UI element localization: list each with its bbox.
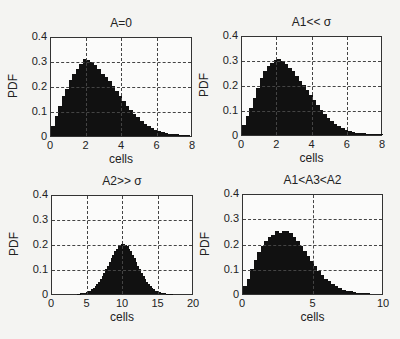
- x-tick-label: 2: [76, 139, 96, 151]
- y-tick-label: 0.2: [32, 80, 47, 92]
- y-tick-label: 0.3: [32, 55, 47, 67]
- x-tick-label: 10: [112, 297, 132, 309]
- gridline-vertical: [347, 37, 348, 135]
- x-tick-label: 2: [266, 138, 286, 150]
- x-axis-label: cells: [102, 310, 142, 324]
- y-tick-label: 0.1: [224, 263, 239, 275]
- x-tick-label: 8: [372, 138, 392, 150]
- x-tick-label: 4: [111, 139, 131, 151]
- gridline-vertical: [121, 38, 122, 136]
- plot-area: [242, 194, 383, 295]
- y-tick-label: 0.1: [32, 105, 47, 117]
- histogram-bar: [379, 134, 383, 135]
- gridline-vertical: [158, 196, 159, 294]
- gridline-vertical: [313, 195, 314, 294]
- y-tick-label: 0.3: [223, 54, 238, 66]
- x-axis-label: cells: [101, 152, 141, 166]
- y-tick-label: 0.2: [224, 238, 239, 250]
- y-tick-label: 0.3: [33, 213, 48, 225]
- plot-area: [241, 36, 382, 136]
- plot-area: [50, 37, 192, 137]
- subplot-title: A1<< σ: [252, 15, 372, 29]
- x-tick-label: 10: [373, 297, 393, 309]
- x-tick-label: 0: [232, 297, 252, 309]
- y-tick-label: 0.4: [33, 188, 48, 200]
- x-tick-label: 4: [302, 138, 322, 150]
- y-tick-label: 0.3: [224, 212, 239, 224]
- plot-area: [51, 195, 193, 295]
- gridline-vertical: [276, 37, 277, 135]
- x-tick-label: 8: [182, 139, 202, 151]
- x-tick-label: 5: [77, 297, 97, 309]
- x-tick-label: 5: [303, 297, 323, 309]
- y-axis-label: PDF: [198, 229, 212, 259]
- y-tick-label: 0.4: [223, 29, 238, 41]
- x-tick-label: 0: [231, 138, 251, 150]
- x-tick-label: 0: [40, 139, 60, 151]
- x-tick-label: 6: [147, 139, 167, 151]
- gridline-vertical: [122, 196, 123, 294]
- y-tick-label: 0.4: [32, 30, 47, 42]
- subplot-title: A1<A3<A2: [253, 173, 373, 187]
- y-tick-label: 0.1: [33, 263, 48, 275]
- y-axis-label: PDF: [197, 70, 211, 100]
- gridline-vertical: [86, 38, 87, 136]
- y-tick-label: 0.4: [224, 187, 239, 199]
- gridline-vertical: [87, 196, 88, 294]
- y-tick-label: 0.2: [223, 79, 238, 91]
- x-axis-label: cells: [293, 310, 333, 324]
- subplot-title: A2>> σ: [62, 174, 182, 188]
- x-tick-label: 20: [183, 297, 203, 309]
- x-tick-label: 0: [41, 297, 61, 309]
- histogram-bar: [186, 135, 190, 137]
- subplot-title: A=0: [61, 16, 181, 30]
- y-axis-label: PDF: [6, 71, 20, 101]
- x-tick-label: 15: [148, 297, 168, 309]
- y-tick-label: 0.1: [223, 104, 238, 116]
- x-axis-label: cells: [292, 151, 332, 165]
- y-tick-label: 0.2: [33, 238, 48, 250]
- histogram-bar: [366, 293, 370, 295]
- x-tick-label: 6: [337, 138, 357, 150]
- gridline-vertical: [157, 38, 158, 136]
- gridline-vertical: [312, 37, 313, 135]
- y-axis-label: PDF: [7, 229, 21, 259]
